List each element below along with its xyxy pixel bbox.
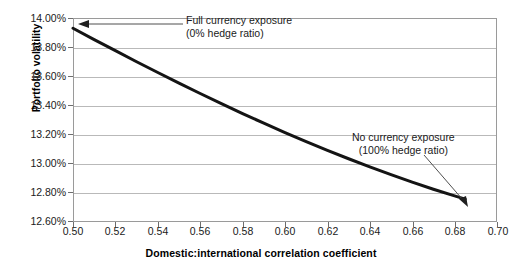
- y-tickmark-13.60: [68, 76, 73, 77]
- annotation-full-line1: Full currency exposure: [186, 14, 292, 27]
- gridline-13.40: [74, 106, 496, 107]
- x-tickmark-0.58: [243, 222, 244, 227]
- x-tick-label-0.62: 0.62: [305, 226, 351, 237]
- y-tickmark-13.00: [68, 163, 73, 164]
- x-tickmark-0.62: [328, 222, 329, 227]
- annotation-none-line2: (100% hedge ratio): [352, 144, 455, 157]
- gridline-13.80: [74, 48, 496, 49]
- x-axis-title: Domestic:international correlation coeff…: [0, 247, 522, 259]
- x-tick-label-0.60: 0.60: [262, 226, 308, 237]
- x-tickmark-0.64: [370, 222, 371, 227]
- x-tick-label-0.54: 0.54: [135, 226, 181, 237]
- x-tickmark-0.54: [158, 222, 159, 227]
- x-tick-label-0.66: 0.66: [390, 226, 436, 237]
- y-tickmark-13.20: [68, 134, 73, 135]
- x-tickmark-0.56: [200, 222, 201, 227]
- x-tick-label-0.58: 0.58: [220, 226, 266, 237]
- gridline-12.80: [74, 193, 496, 194]
- x-tick-label-0.56: 0.56: [177, 226, 223, 237]
- x-tick-label-0.68: 0.68: [432, 226, 478, 237]
- x-tick-label-0.70: 0.70: [475, 226, 521, 237]
- x-tickmark-0.60: [285, 222, 286, 227]
- x-tick-label-0.50: 0.50: [50, 226, 96, 237]
- y-tickmark-12.80: [68, 192, 73, 193]
- y-axis-title: Portfolio volatility: [30, 0, 42, 138]
- y-tick-label-12.80: 12.80%: [10, 187, 66, 198]
- chart-root: 14.00% 13.80% 13.60% 13.40% 13.20% 13.00…: [0, 0, 522, 272]
- annotation-full-line2: (0% hedge ratio): [186, 27, 292, 40]
- gridline-13.00: [74, 164, 496, 165]
- x-tick-label-0.52: 0.52: [92, 226, 138, 237]
- plot-area: [73, 18, 497, 222]
- gridline-13.60: [74, 77, 496, 78]
- y-tickmark-13.40: [68, 105, 73, 106]
- x-tickmark-0.68: [455, 222, 456, 227]
- x-tickmark-0.70: [497, 222, 498, 227]
- annotation-none-line1: No currency exposure: [352, 131, 455, 144]
- y-tickmark-13.80: [68, 47, 73, 48]
- x-tickmark-0.50: [73, 222, 74, 227]
- annotation-full-currency-exposure: Full currency exposure (0% hedge ratio): [186, 14, 292, 39]
- x-tickmark-0.52: [115, 222, 116, 227]
- x-tickmark-0.66: [413, 222, 414, 227]
- x-tick-label-0.64: 0.64: [347, 226, 393, 237]
- annotation-no-currency-exposure: No currency exposure (100% hedge ratio): [352, 131, 455, 156]
- y-tick-label-13.00: 13.00%: [10, 158, 66, 169]
- y-tickmark-14.00: [68, 18, 73, 19]
